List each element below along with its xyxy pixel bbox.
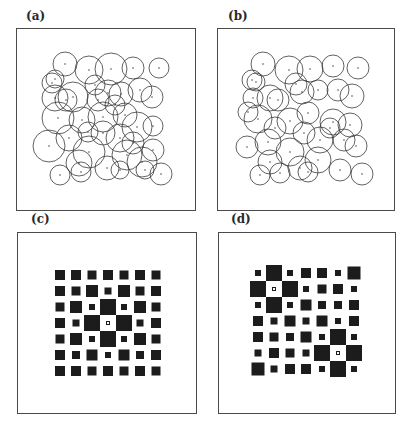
square: [317, 316, 328, 327]
center-dot: [307, 112, 308, 113]
center-dot: [102, 132, 103, 133]
square: [72, 287, 81, 296]
square: [151, 350, 161, 360]
center-dot: [339, 169, 340, 170]
center-dot: [120, 93, 121, 94]
square: [84, 315, 100, 331]
square: [135, 366, 145, 376]
square: [333, 284, 343, 294]
center-dot: [102, 116, 103, 117]
square: [120, 271, 129, 280]
square: [119, 350, 130, 361]
center-dot: [279, 172, 280, 173]
square: [55, 366, 65, 376]
square: [86, 285, 98, 297]
center-dot: [252, 97, 253, 98]
square: [314, 345, 330, 361]
square: [56, 303, 65, 312]
square: [303, 286, 309, 292]
square: [271, 318, 278, 325]
center-dot: [269, 97, 270, 98]
center-dot: [289, 151, 290, 152]
center-dot: [357, 67, 358, 68]
center-dot: [337, 89, 338, 90]
center-dot: [317, 159, 318, 160]
center-dot: [80, 171, 81, 172]
square: [319, 334, 325, 340]
square: [351, 334, 357, 340]
square: [103, 270, 113, 280]
square: [351, 286, 357, 292]
square: [301, 268, 311, 278]
square: [152, 367, 161, 376]
square: [334, 301, 342, 309]
square: [253, 332, 263, 342]
panel-b-content: [236, 52, 373, 185]
center-dot: [107, 92, 108, 93]
center-dot: [332, 121, 333, 122]
square: [303, 318, 310, 325]
center-dot: [97, 99, 98, 100]
square: [88, 367, 97, 376]
square: [100, 331, 116, 347]
square: [88, 271, 97, 280]
center-dot: [355, 145, 356, 146]
center-dot: [139, 89, 140, 90]
square: [253, 316, 263, 326]
center-dot: [251, 79, 252, 80]
square: [287, 270, 293, 276]
square: [55, 318, 65, 328]
square: [56, 335, 65, 344]
square: [152, 271, 161, 280]
panel-a-content: [33, 52, 172, 185]
center-dot: [106, 167, 107, 168]
square: [255, 350, 262, 357]
square: [152, 303, 161, 312]
square: [55, 350, 65, 360]
center-dot: [132, 142, 133, 143]
square: [285, 316, 296, 327]
center-dot: [114, 104, 115, 105]
square: [351, 366, 357, 372]
square: [55, 270, 65, 280]
square: [107, 322, 110, 325]
square: [330, 361, 346, 377]
square: [286, 333, 294, 341]
panel-c-content: [55, 270, 161, 376]
center-dot: [88, 151, 89, 152]
center-dot: [144, 169, 145, 170]
square: [317, 268, 327, 278]
square: [135, 270, 145, 280]
square: [121, 336, 127, 342]
center-dot: [88, 69, 89, 70]
center-dot: [68, 137, 69, 138]
square: [120, 367, 129, 376]
center-dot: [158, 67, 159, 68]
square: [266, 297, 282, 313]
square: [270, 333, 279, 342]
square: [151, 286, 161, 296]
square: [105, 352, 111, 358]
square: [330, 329, 346, 345]
square: [100, 299, 116, 315]
square: [152, 335, 161, 344]
square: [118, 285, 130, 297]
center-dot: [48, 145, 49, 146]
square: [349, 316, 359, 326]
center-dot: [152, 125, 153, 126]
square: [116, 315, 132, 331]
square: [71, 270, 81, 280]
square: [285, 364, 295, 374]
square: [87, 350, 98, 361]
figure-canvas: [0, 0, 411, 422]
center-dot: [124, 114, 125, 115]
square: [335, 318, 341, 324]
center-dot: [269, 161, 270, 162]
center-dot: [351, 95, 352, 96]
center-dot: [317, 89, 318, 90]
center-dot: [54, 78, 55, 79]
center-dot: [65, 99, 66, 100]
panel-d-content: [250, 265, 362, 377]
center-dot: [267, 141, 268, 142]
square: [55, 286, 65, 296]
